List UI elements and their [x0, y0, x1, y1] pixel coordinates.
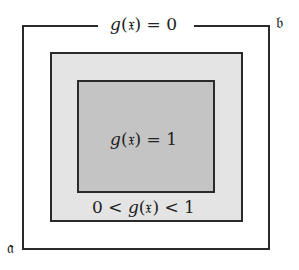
- corner-label-b: 𝔟: [276, 15, 283, 31]
- corner-label-a: 𝔞: [7, 240, 14, 256]
- label-g-equals-one: g(𝔵) = 1: [110, 131, 177, 148]
- label-g-between-zero-and-one: 0 < g(𝔵) < 1: [92, 199, 195, 216]
- label-g-equals-zero: g(𝔵) = 0: [110, 16, 177, 33]
